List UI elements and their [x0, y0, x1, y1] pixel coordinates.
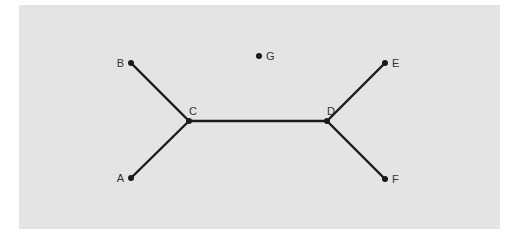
graph-diagram: ABCDEFG: [0, 0, 522, 240]
node-dot-icon: [324, 118, 330, 124]
nodes: ABCDEFG: [117, 50, 400, 185]
node-label: E: [392, 57, 399, 69]
node-f: F: [382, 173, 399, 185]
node-dot-icon: [186, 118, 192, 124]
node-d: D: [324, 105, 335, 124]
node-label: D: [327, 105, 335, 117]
node-dot-icon: [382, 60, 388, 66]
node-g: G: [256, 50, 275, 62]
edge-a-c: [131, 121, 189, 178]
edge-d-f: [327, 121, 385, 179]
node-label: A: [117, 172, 125, 184]
node-label: C: [189, 105, 197, 117]
node-dot-icon: [256, 53, 262, 59]
node-label: B: [117, 57, 124, 69]
node-b: B: [117, 57, 134, 69]
node-dot-icon: [128, 60, 134, 66]
node-a: A: [117, 172, 134, 184]
node-label: G: [266, 50, 275, 62]
edges: [131, 63, 385, 179]
node-dot-icon: [382, 176, 388, 182]
edge-d-e: [327, 63, 385, 121]
node-label: F: [392, 173, 399, 185]
node-e: E: [382, 57, 399, 69]
node-dot-icon: [128, 175, 134, 181]
edge-b-c: [131, 63, 189, 121]
